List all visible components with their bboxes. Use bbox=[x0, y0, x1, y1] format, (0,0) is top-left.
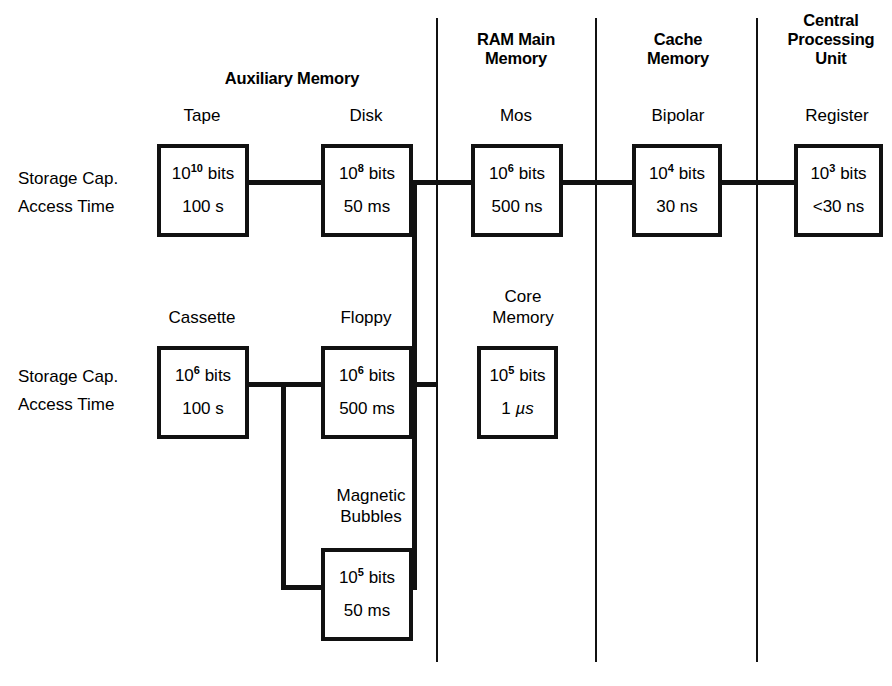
box-caption-register: Register bbox=[787, 105, 887, 126]
node-register-capacity: 103 bits bbox=[810, 164, 866, 184]
box-caption-magnetic-bubbles: Magnetic Bubbles bbox=[317, 485, 425, 527]
connector-tape-disk bbox=[244, 180, 324, 185]
box-caption-tape: Tape bbox=[152, 105, 252, 126]
node-bipolar[interactable]: 104 bits 30 ns bbox=[632, 144, 722, 237]
node-floppy-capacity: 106 bits bbox=[339, 366, 395, 386]
node-bipolar-capacity: 104 bits bbox=[649, 164, 705, 184]
node-core-memory-access-time: 1 µs bbox=[501, 399, 533, 419]
column-divider-2 bbox=[595, 18, 597, 662]
box-caption-mos: Mos bbox=[466, 105, 566, 126]
memory-hierarchy-diagram: Auxiliary Memory RAM Main Memory Cache M… bbox=[0, 0, 892, 686]
connector-drop-to-bubbles bbox=[281, 382, 286, 590]
group-heading-auxiliary-memory: Auxiliary Memory bbox=[192, 69, 392, 88]
node-bipolar-access-time: 30 ns bbox=[656, 197, 698, 217]
node-tape[interactable]: 1010 bits 100 s bbox=[157, 144, 249, 237]
row-label-access-time-bottom: Access Time bbox=[18, 394, 114, 415]
group-heading-cache-memory: Cache Memory bbox=[612, 30, 744, 68]
node-magnetic-bubbles-access-time: 50 ms bbox=[344, 601, 390, 621]
box-caption-cassette: Cassette bbox=[152, 307, 252, 328]
row-label-storage-cap-bottom: Storage Cap. bbox=[18, 366, 118, 387]
node-floppy-access-time: 500 ms bbox=[339, 399, 395, 419]
connector-drop-to-bubbles-left bbox=[281, 585, 321, 590]
node-mos-access-time: 500 ns bbox=[491, 197, 542, 217]
row-label-storage-cap-top: Storage Cap. bbox=[18, 168, 118, 189]
node-core-memory-capacity: 105 bits bbox=[489, 366, 545, 386]
node-register[interactable]: 103 bits <30 ns bbox=[794, 144, 883, 237]
box-caption-floppy: Floppy bbox=[316, 307, 416, 328]
row-label-access-time-top: Access Time bbox=[18, 196, 114, 217]
node-tape-capacity: 1010 bits bbox=[172, 164, 234, 184]
node-magnetic-bubbles-capacity: 105 bits bbox=[339, 568, 395, 588]
node-cassette-capacity: 106 bits bbox=[175, 366, 231, 386]
node-cassette[interactable]: 106 bits 100 s bbox=[157, 346, 249, 439]
connector-bipolar-register bbox=[718, 180, 799, 185]
node-register-access-time: <30 ns bbox=[813, 197, 865, 217]
node-disk[interactable]: 108 bits 50 ms bbox=[321, 144, 413, 237]
box-caption-bipolar: Bipolar bbox=[628, 105, 728, 126]
node-tape-access-time: 100 s bbox=[182, 197, 224, 217]
connector-mos-bipolar bbox=[559, 180, 638, 185]
node-floppy[interactable]: 106 bits 500 ms bbox=[321, 346, 413, 439]
box-caption-core-memory: Core Memory bbox=[473, 286, 573, 328]
node-magnetic-bubbles[interactable]: 105 bits 50 ms bbox=[321, 548, 413, 641]
column-divider-3 bbox=[756, 18, 758, 662]
node-core-memory[interactable]: 105 bits 1 µs bbox=[477, 346, 558, 439]
node-mos-capacity: 106 bits bbox=[489, 164, 545, 184]
group-heading-ram-main-memory: RAM Main Memory bbox=[450, 30, 582, 68]
node-disk-capacity: 108 bits bbox=[339, 164, 395, 184]
connector-disk-mos bbox=[410, 180, 476, 185]
node-mos[interactable]: 106 bits 500 ns bbox=[471, 144, 563, 237]
column-divider-1 bbox=[436, 18, 438, 662]
node-disk-access-time: 50 ms bbox=[344, 197, 390, 217]
box-caption-disk: Disk bbox=[316, 105, 416, 126]
node-cassette-access-time: 100 s bbox=[182, 399, 224, 419]
group-heading-central-processing-unit: Central Processing Unit bbox=[772, 11, 890, 68]
